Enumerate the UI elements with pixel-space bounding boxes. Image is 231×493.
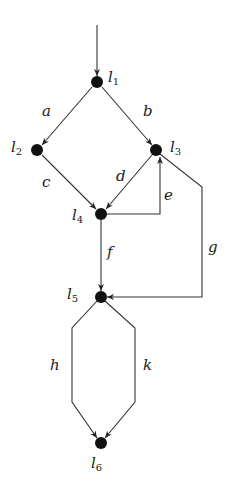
- edge-label-g: g: [208, 238, 218, 256]
- node-l5: [95, 291, 107, 303]
- edge-label-h: h: [50, 356, 60, 374]
- edge-label-e: e: [164, 186, 173, 204]
- edge-label-b: b: [143, 102, 153, 120]
- edge-e: [106, 157, 160, 214]
- node-label-l2: l2: [11, 138, 22, 157]
- node-l2: [31, 144, 43, 156]
- node-label-l5: l5: [67, 285, 78, 304]
- edge-d: [106, 155, 152, 209]
- edge-k: [105, 301, 135, 438]
- edge-label-d: d: [116, 167, 126, 185]
- node-label-l4: l4: [72, 206, 83, 225]
- node-label-l3: l3: [170, 138, 181, 157]
- control-flow-diagram: l1 l2 l3 l4 l5 l6 a b c d e f g h k: [0, 0, 231, 493]
- edge-label-k: k: [143, 356, 152, 374]
- node-label-l6: l6: [91, 454, 102, 473]
- node-l6: [95, 437, 107, 449]
- node-label-l1: l1: [108, 68, 119, 87]
- edge-label-f: f: [106, 243, 115, 261]
- node-l1: [91, 76, 103, 88]
- edge-label-a: a: [42, 102, 51, 120]
- node-l4: [95, 208, 107, 220]
- node-l3: [150, 144, 162, 156]
- edge-h: [72, 301, 97, 438]
- edge-label-c: c: [42, 173, 51, 191]
